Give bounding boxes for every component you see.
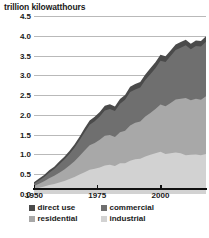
chart-title: trillion kilowatthours [4,2,85,12]
legend-row-1: direct use commercial [29,203,181,212]
legend-swatch-direct-use [29,205,35,211]
y-tick-label: 0.5 [20,170,31,179]
stacked-area-series [34,16,206,194]
legend-swatch-industrial [101,216,107,222]
x-tick-mark [34,185,35,189]
y-tick-label: 1.0 [20,150,31,159]
chart-legend: direct use commercial residential [0,203,209,223]
x-tick-label: 2000 [152,191,170,200]
x-tick-label: 1975 [88,191,106,200]
x-axis-line [33,188,207,190]
plot-wrapper: 4.54.03.53.02.52.01.51.00.50.0 [0,16,209,194]
y-tick-label: 2.0 [20,110,31,119]
y-tick-label: 4.5 [20,12,31,21]
plot-area [34,16,206,194]
legend-label-industrial: industrial [110,214,146,223]
legend-item-industrial[interactable]: industrial [101,214,146,223]
legend-label-commercial: commercial [110,203,154,212]
x-tick-mark [97,185,98,189]
y-tick-label: 2.5 [20,91,31,100]
legend-swatch-commercial [101,205,107,211]
legend-item-residential[interactable]: residential [29,214,78,223]
y-tick-label: 3.5 [20,51,31,60]
y-tick-label: 3.0 [20,71,31,80]
legend-item-commercial[interactable]: commercial [101,203,154,212]
y-tick-label: 4.0 [20,31,31,40]
legend-label-direct-use: direct use [38,203,76,212]
x-tick-mark [160,185,161,189]
y-axis: 4.54.03.53.02.52.01.51.00.50.0 [0,16,34,194]
legend-item-direct-use[interactable]: direct use [29,203,76,212]
x-tick-label: 1950 [25,191,43,200]
legend-label-residential: residential [38,214,78,223]
legend-row-2: residential industrial [29,214,181,223]
y-tick-label: 1.5 [20,130,31,139]
chart-container: trillion kilowatthours 4.54.03.53.02.52.… [0,0,209,238]
legend-swatch-residential [29,216,35,222]
